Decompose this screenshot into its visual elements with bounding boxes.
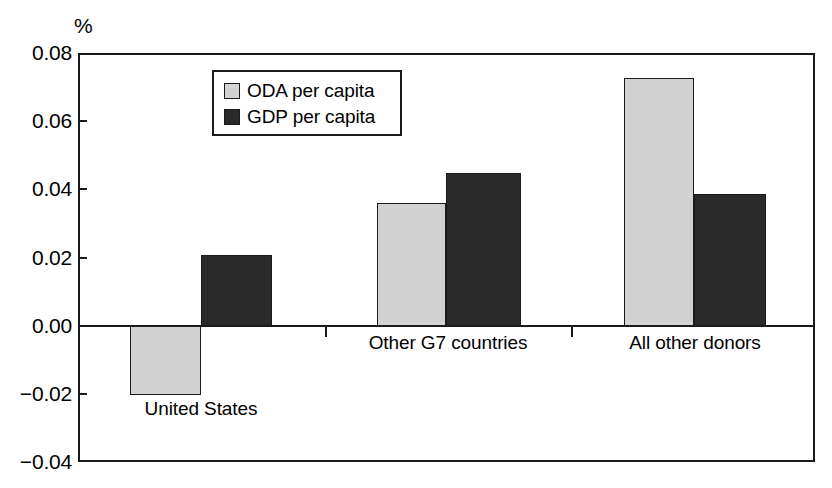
y-axis-tick-label: 0.02 <box>0 247 72 268</box>
y-axis-tick-label: 0.08 <box>0 42 72 63</box>
category-label: All other donors <box>629 332 760 354</box>
bar-oda-2 <box>624 78 694 326</box>
bar-oda-0 <box>130 326 201 395</box>
category-separator-tick <box>325 327 327 337</box>
y-axis-tick-label: 0.06 <box>0 110 72 131</box>
y-axis-tick-label: −0.04 <box>0 451 72 472</box>
legend-label-gdp: GDP per capita <box>247 107 375 127</box>
category-label: Other G7 countries <box>369 332 528 354</box>
bar-gdp-2 <box>694 194 766 325</box>
y-axis-unit-label: % <box>74 14 93 38</box>
category-separator-tick <box>571 327 573 337</box>
y-axis-tick-mark <box>78 120 87 122</box>
bar-gdp-1 <box>446 173 521 326</box>
y-axis-tick-label: 0.04 <box>0 178 72 199</box>
legend-item-oda: ODA per capita <box>224 78 400 104</box>
chart-legend: ODA per capita GDP per capita <box>212 70 402 136</box>
y-axis-tick-label: −0.02 <box>0 383 72 404</box>
y-axis-tick-label: 0.00 <box>0 315 72 336</box>
bar-gdp-0 <box>201 255 272 325</box>
y-axis-tick-mark <box>78 393 87 395</box>
legend-item-gdp: GDP per capita <box>224 104 400 130</box>
legend-swatch-icon-gdp <box>224 109 240 125</box>
y-axis-tick-mark <box>78 188 87 190</box>
bar-chart: % 0.080.060.040.020.00−0.02−0.04 United … <box>0 0 832 488</box>
y-axis-tick-mark <box>78 257 87 259</box>
bar-oda-1 <box>377 203 446 326</box>
y-axis-tick-labels: 0.080.060.040.020.00−0.02−0.04 <box>0 0 72 488</box>
legend-label-oda: ODA per capita <box>247 81 374 101</box>
category-label: United States <box>145 398 258 420</box>
legend-swatch-icon-oda <box>224 83 240 99</box>
